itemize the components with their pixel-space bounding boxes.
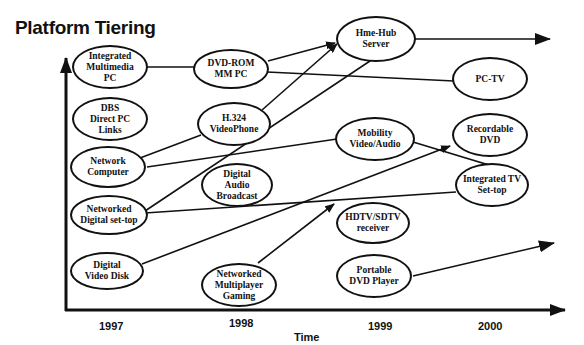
edge-dvdrom-hmehub <box>268 43 335 61</box>
node-digital-audio-broadcast: Digital Audio Broadcast <box>201 163 273 207</box>
node-recordable-dvd: Recordable DVD <box>452 113 528 157</box>
node-dvd-rom-mm-pc: DVD-ROM MM PC <box>193 49 269 89</box>
year-1999: 1999 <box>368 320 392 332</box>
node-network-computer: Network Computer <box>70 146 146 188</box>
year-1997: 1997 <box>99 320 123 332</box>
node-portable-dvd-player: Portable DVD Player <box>336 254 412 298</box>
node-networked-digital-set-top: Networked Digital set-top <box>70 195 148 235</box>
node-h324-videophone: H.324 VideoPhone <box>197 102 271 146</box>
edge-dvdrom-pctv <box>267 72 454 81</box>
node-networked-multiplayer-gaming: Networked Multiplayer Gaming <box>201 263 277 307</box>
x-axis-label: Time <box>294 331 319 343</box>
node-hme-hub-server: Hme-Hub Server <box>336 16 416 62</box>
node-pc-tv: PC-TV <box>452 57 528 101</box>
edge-pdvd-out <box>413 243 554 276</box>
edge-nc-h324 <box>140 135 201 158</box>
node-integrated-multimedia-pc: Integrated Multimedia PC <box>72 45 148 89</box>
node-digital-video-disk: Digital Video Disk <box>70 252 144 290</box>
node-dbs-direct-pc-links: DBS Direct PC Links <box>72 97 148 141</box>
node-mobility-video-audio: Mobility Video/Audio <box>335 117 415 161</box>
edge-nmg-out <box>258 204 334 263</box>
year-2000: 2000 <box>478 320 502 332</box>
diagram-title: Platform Tiering <box>15 17 156 39</box>
year-1998: 1998 <box>229 317 253 329</box>
node-hdtv-sdtv-receiver: HDTV/SDTV receiver <box>336 202 410 244</box>
node-integrated-tv-set-top: Integrated TV Set-top <box>455 163 529 207</box>
edge-h324-hmehub <box>262 44 337 110</box>
edge-dvd-recdvd <box>142 146 450 264</box>
